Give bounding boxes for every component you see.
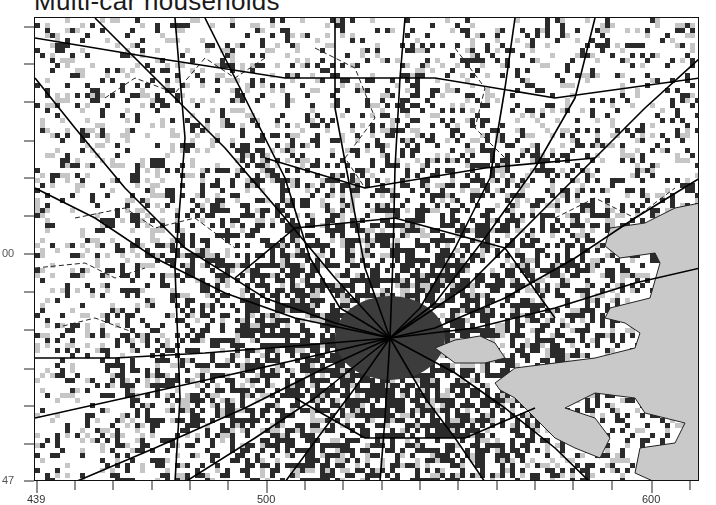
road <box>335 18 390 338</box>
y-tick-label: 00 <box>2 247 14 259</box>
county-boundary <box>555 188 675 218</box>
estuary-water <box>435 203 699 481</box>
water-body <box>495 203 699 481</box>
road <box>205 18 390 338</box>
road <box>75 338 390 481</box>
road <box>235 218 555 318</box>
map-overlay <box>35 18 699 481</box>
county-boundary <box>105 58 265 98</box>
road <box>380 338 390 481</box>
road <box>265 158 595 188</box>
road <box>35 188 390 338</box>
road <box>35 338 390 358</box>
road <box>35 38 699 98</box>
x-tick-label: 500 <box>257 493 275 505</box>
county-boundary <box>35 263 145 278</box>
county-boundary <box>315 48 375 188</box>
road <box>390 18 515 338</box>
x-tick-label: 600 <box>642 493 660 505</box>
road <box>175 18 185 481</box>
road <box>390 18 405 338</box>
county-boundary <box>455 48 505 158</box>
road <box>95 18 390 338</box>
x-tick-label: 439 <box>27 493 45 505</box>
water-body <box>435 336 505 363</box>
map-title: Multi-car households <box>34 0 280 17</box>
county-boundaries <box>35 48 675 333</box>
county-boundary <box>75 208 235 248</box>
road <box>185 338 390 481</box>
road <box>35 338 390 418</box>
county-boundary <box>55 318 135 333</box>
map-area[interactable] <box>34 17 699 481</box>
y-tick-label: 47 <box>2 474 14 486</box>
road-network <box>35 18 699 481</box>
